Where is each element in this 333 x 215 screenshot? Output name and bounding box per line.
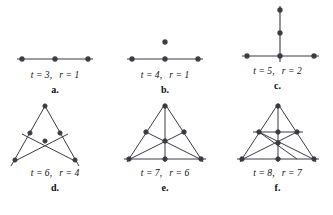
- figure-panel-d: t = 6,r = 4 d.: [0, 98, 110, 208]
- figure-panel-e: t = 7,r = 6 e.: [110, 98, 220, 208]
- point: [163, 157, 167, 161]
- panel-f-label: t = 8,r = 7: [222, 168, 333, 178]
- point-isolated: [163, 40, 167, 44]
- point: [276, 130, 280, 134]
- point: [312, 54, 316, 58]
- point: [182, 130, 186, 134]
- point: [257, 130, 261, 134]
- panel-b-r-label: r = 1: [169, 70, 189, 80]
- panel-e-diagram: [110, 98, 220, 170]
- point: [20, 57, 24, 61]
- panel-c-diagram: [222, 0, 333, 70]
- point: [312, 157, 316, 161]
- panel-f-r-label: r = 7: [282, 168, 302, 178]
- point: [240, 157, 244, 161]
- panel-e-t-label: t = 7,: [141, 168, 163, 178]
- point: [276, 104, 280, 108]
- panel-e-label: t = 7,r = 6: [110, 168, 220, 178]
- point: [130, 57, 134, 61]
- panel-c-caption: c.: [222, 80, 333, 91]
- point: [13, 158, 17, 162]
- panel-d-caption: d.: [0, 182, 110, 193]
- point: [196, 57, 200, 61]
- point: [199, 157, 203, 161]
- panel-f-diagram: [222, 98, 333, 170]
- panel-f-t-label: t = 8,: [253, 168, 275, 178]
- panel-a-r-label: r = 1: [59, 70, 79, 80]
- point: [53, 57, 57, 61]
- figure-panel-grid: t = 3,r = 1 a. t = 4,r = 1 b.: [0, 0, 333, 215]
- panel-d-diagram: [0, 98, 110, 170]
- point: [127, 157, 131, 161]
- line-2: [45, 106, 79, 166]
- panel-d-r-label: r = 4: [59, 168, 79, 178]
- panel-f-caption: f.: [222, 182, 333, 193]
- point: [276, 141, 280, 145]
- point: [58, 131, 62, 135]
- figure-panel-c: t = 5,r = 2 c.: [222, 0, 333, 96]
- point: [73, 158, 77, 162]
- point: [245, 54, 249, 58]
- panel-e-caption: e.: [110, 182, 220, 193]
- panel-b-caption: b.: [110, 84, 220, 95]
- panel-e-r-label: r = 6: [169, 168, 189, 178]
- panel-b-diagram: [110, 30, 220, 74]
- panel-b-label: t = 4,r = 1: [110, 70, 220, 80]
- point: [278, 54, 282, 58]
- point: [278, 8, 282, 12]
- panel-a-caption: a.: [0, 84, 110, 95]
- point: [163, 139, 167, 143]
- panel-d-t-label: t = 6,: [31, 168, 53, 178]
- panel-c-r-label: r = 2: [282, 66, 302, 76]
- point: [163, 104, 167, 108]
- point: [43, 104, 47, 108]
- figure-panel-f: t = 8,r = 7 f.: [222, 98, 333, 208]
- point: [28, 131, 32, 135]
- point: [278, 31, 282, 35]
- panel-c-label: t = 5,r = 2: [222, 66, 333, 76]
- line-1: [11, 106, 45, 166]
- panel-a-label: t = 3,r = 1: [0, 70, 110, 80]
- panel-d-label: t = 6,r = 4: [0, 168, 110, 178]
- panel-a-t-label: t = 3,: [31, 70, 53, 80]
- panel-b-t-label: t = 4,: [141, 70, 163, 80]
- point: [295, 130, 299, 134]
- figure-panel-b: t = 4,r = 1 b.: [110, 30, 220, 96]
- point: [144, 130, 148, 134]
- point: [163, 57, 167, 61]
- figure-panel-a: t = 3,r = 1 a.: [0, 44, 110, 96]
- point: [276, 157, 280, 161]
- point: [86, 57, 90, 61]
- point: [43, 139, 47, 143]
- panel-c-t-label: t = 5,: [253, 66, 275, 76]
